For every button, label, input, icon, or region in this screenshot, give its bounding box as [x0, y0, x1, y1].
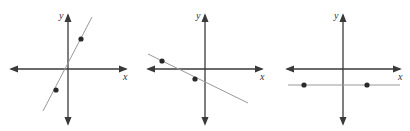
data-point: [53, 87, 58, 92]
y-axis-label: y: [195, 10, 201, 21]
data-point: [301, 82, 306, 87]
data-point: [159, 58, 164, 63]
data-point: [192, 76, 197, 81]
y-axis-label: y: [333, 10, 339, 21]
data-point: [78, 36, 83, 41]
y-axis-label: y: [58, 10, 64, 21]
x-axis-label: x: [122, 71, 128, 82]
graph-3: y x: [287, 10, 403, 124]
graph-1: y x: [11, 10, 128, 124]
graph-2: y x: [148, 10, 265, 124]
x-axis-label: x: [397, 71, 403, 82]
x-axis-label: x: [259, 71, 265, 82]
data-point: [364, 82, 369, 87]
coordinate-graphs: y x y x y x: [0, 0, 410, 131]
